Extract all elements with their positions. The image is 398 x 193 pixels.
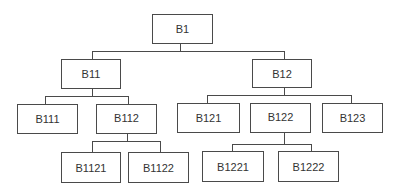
connector	[207, 95, 208, 103]
connector	[92, 88, 93, 96]
connector	[284, 87, 285, 95]
connector	[284, 51, 285, 59]
connector	[284, 132, 285, 144]
connector	[92, 51, 285, 52]
node-b122: B122	[250, 103, 311, 133]
node-b11: B11	[61, 59, 121, 89]
node-b1122: B1122	[128, 152, 189, 183]
connector	[45, 96, 46, 104]
node-b12: B12	[252, 59, 312, 88]
connector	[45, 96, 129, 97]
node-b121: B121	[177, 103, 240, 133]
node-b111: B111	[17, 104, 78, 134]
connector	[311, 144, 312, 151]
connector	[207, 95, 352, 96]
node-b1: B1	[152, 14, 213, 44]
connector	[127, 133, 128, 141]
connector	[180, 43, 181, 51]
node-b112: B112	[96, 104, 157, 134]
node-b1222: B1222	[278, 151, 339, 182]
node-b1221: B1221	[202, 151, 264, 182]
connector	[351, 95, 352, 103]
connector	[92, 141, 161, 142]
connector	[92, 141, 93, 152]
connector	[160, 141, 161, 152]
node-b1121: B1121	[61, 152, 121, 183]
connector	[232, 144, 312, 145]
connector	[232, 144, 233, 151]
node-b123: B123	[322, 103, 383, 133]
connector	[128, 96, 129, 104]
connector	[92, 51, 93, 59]
